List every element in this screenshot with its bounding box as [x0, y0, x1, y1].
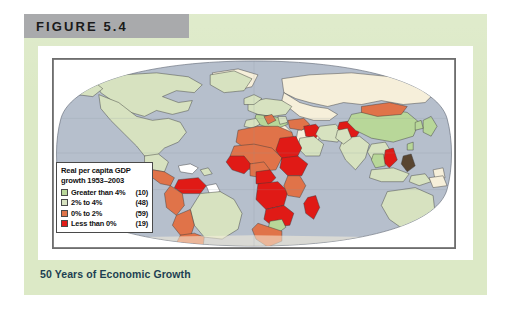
legend-label: Greater than 4%: [71, 188, 125, 197]
legend-label: 0% to 2%: [71, 209, 102, 218]
legend-count: (10): [135, 188, 148, 197]
legend-title-line-2: growth 1953–2003: [61, 176, 148, 186]
legend-count: (59): [135, 209, 148, 218]
legend-swatch-less-than-0: [61, 220, 68, 227]
legend-swatch-0-to-2: [61, 210, 68, 217]
legend-rows: Greater than 4% (10) 2% to 4% (48) 0% to…: [61, 187, 148, 229]
legend-label: Less than 0%: [71, 219, 116, 228]
map-legend: Real per capita GDP growth 1953–2003 Gre…: [56, 162, 153, 233]
legend-item[interactable]: 2% to 4% (48): [61, 198, 148, 209]
figure-number-label: FIGURE 5.4: [24, 19, 128, 34]
legend-count: (48): [135, 198, 148, 207]
figure-caption: 50 Years of Economic Growth: [40, 268, 191, 280]
legend-label: 2% to 4%: [71, 198, 102, 207]
legend-title-line-1: Real per capita GDP: [61, 166, 148, 176]
legend-item[interactable]: Greater than 4% (10): [61, 187, 148, 198]
legend-swatch-greater-than-4: [61, 189, 68, 196]
legend-item[interactable]: Less than 0% (19): [61, 219, 148, 230]
figure-number-banner: FIGURE 5.4: [24, 14, 189, 38]
legend-swatch-2-to-4: [61, 199, 68, 206]
legend-count: (19): [135, 219, 148, 228]
legend-item[interactable]: 0% to 2% (59): [61, 208, 148, 219]
